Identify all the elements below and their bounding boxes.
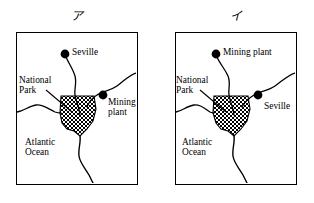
marker-seville-b (254, 91, 263, 100)
label-ocean-line1-a: Atlantic (25, 137, 55, 147)
map-panel-b: イ Mining plant (161, 0, 311, 203)
label-lower-city-a: Mining plant (108, 97, 136, 118)
marker-mining-plant-b (212, 50, 221, 59)
marker-mining-plant-a (99, 91, 108, 100)
label-atlantic-ocean-b: Atlantic Ocean (182, 137, 212, 158)
label-national-park-line1-b: National (176, 75, 208, 85)
national-park-area-a (60, 96, 96, 136)
label-lower-city-line1-a: Mining (108, 97, 136, 107)
river-estuary-b (233, 136, 247, 183)
label-ocean-line2-b: Ocean (182, 147, 206, 157)
label-upper-city-a: Seville (72, 47, 98, 57)
label-ocean-line1-b: Atlantic (182, 137, 212, 147)
panel-b-tag: イ (161, 8, 311, 24)
label-national-park-a: National Park (19, 75, 51, 96)
label-lower-city-line2-a: plant (108, 107, 127, 117)
panel-b-map-frame: Mining plant National Park Seville Atlan… (175, 32, 297, 185)
river-estuary-a (79, 136, 93, 183)
label-national-park-line2-b: Park (176, 85, 193, 95)
marker-seville-a (61, 50, 70, 59)
two-panel-map-figure: ア (0, 0, 314, 203)
label-atlantic-ocean-a: Atlantic Ocean (25, 137, 55, 158)
coastline-a (17, 105, 61, 113)
national-park-area-b (213, 96, 250, 136)
coastline-b (176, 105, 214, 113)
label-lower-city-b: Seville (264, 101, 290, 111)
label-national-park-b: National Park (176, 75, 208, 96)
panel-a-map-frame: Seville National Park Mining plant Atlan… (16, 32, 138, 185)
map-panel-a: ア (2, 0, 152, 203)
panel-a-tag: ア (2, 8, 152, 24)
label-national-park-line1-a: National (19, 75, 51, 85)
label-national-park-line2-a: Park (19, 85, 36, 95)
label-upper-city-b: Mining plant (223, 47, 272, 57)
label-ocean-line2-a: Ocean (25, 147, 49, 157)
